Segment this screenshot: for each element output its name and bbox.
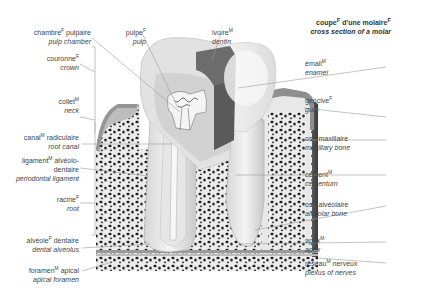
label-enamel: émailM enamel — [305, 59, 328, 77]
label-pulp-chamber: chambreF pulpaire pulp chamber — [34, 28, 91, 46]
tooth — [140, 38, 276, 252]
label-crown: couronneF crown — [47, 54, 79, 72]
label-alveolar-bone: osM alvéolaire alveolar bone — [305, 200, 349, 218]
label-cementum: cémentM cementum — [305, 170, 338, 188]
label-root-canal: canalM radiculaire root canal — [24, 133, 79, 151]
label-dentin: ivoireM dentin — [212, 28, 233, 46]
diagram-title: coupeF d'une molaireF cross section of a… — [310, 16, 391, 36]
label-periodontal-ligament: ligamentM alvéolo- dentaire periodontal … — [16, 156, 79, 183]
bracket-lines — [92, 47, 95, 235]
label-neck: colletM neck — [58, 97, 79, 115]
label-gum: genciveF gum — [305, 96, 332, 114]
label-plexus-of-nerves: réseauM nerveux plexus of nerves — [305, 259, 357, 277]
label-apical-foramen: foramenM apical apical foramen — [29, 266, 79, 284]
label-pulp: pulpeF pulp — [126, 28, 146, 46]
label-dental-alveolus: alvéoleF dentaire dental alveolus — [27, 236, 80, 254]
label-apex: apexM apex — [305, 236, 324, 254]
label-maxillary-bone: osM maxillaire maxillary bone — [305, 134, 350, 152]
label-root: racineF root — [57, 195, 79, 213]
